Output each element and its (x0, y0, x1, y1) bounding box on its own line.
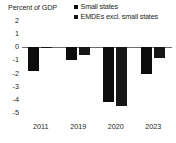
x-axis-tick-label: 2011 (33, 122, 48, 131)
bar (41, 47, 52, 48)
y-axis-tick-label: -5 (13, 109, 19, 117)
y-axis-tick-label: -2 (13, 70, 19, 78)
bar-group (97, 21, 135, 113)
plot-area: 210-1-2-3-4-5 (22, 21, 172, 113)
y-axis-tick-label: -1 (13, 56, 19, 64)
x-axis-tick-label: 2020 (108, 122, 124, 131)
y-axis-tick-label: 1 (15, 30, 19, 38)
bar (141, 47, 152, 73)
bar-group (60, 21, 98, 113)
bar (28, 47, 39, 71)
x-axis-tick-label: 2019 (70, 122, 86, 131)
bar (103, 47, 114, 102)
bar (116, 47, 127, 106)
legend-swatch-icon (74, 5, 78, 9)
chart-figure: Percent of GDP Small states EMDEs excl. … (0, 0, 176, 143)
x-axis: 2011201920202023 (22, 122, 172, 134)
legend-item-emdes-excl-small-states: EMDEs excl. small states (74, 13, 158, 21)
bar (79, 47, 90, 55)
legend-item-small-states: Small states (74, 3, 158, 11)
y-axis-tick-label: -4 (13, 96, 19, 104)
y-axis-tick-label: 0 (15, 43, 19, 51)
bar (66, 47, 77, 60)
chart-legend: Small states EMDEs excl. small states (74, 3, 158, 21)
chart-axis-title: Percent of GDP (8, 3, 57, 12)
y-axis-tick-label: 2 (15, 17, 19, 25)
x-axis-tick-label: 2023 (145, 122, 161, 131)
legend-item-label: EMDEs excl. small states (81, 13, 158, 21)
y-axis-tick-label: -3 (13, 83, 19, 91)
legend-item-label: Small states (81, 3, 118, 11)
bar-group (22, 21, 60, 113)
legend-swatch-icon (74, 15, 78, 19)
bar (154, 47, 165, 58)
bar-group (135, 21, 173, 113)
